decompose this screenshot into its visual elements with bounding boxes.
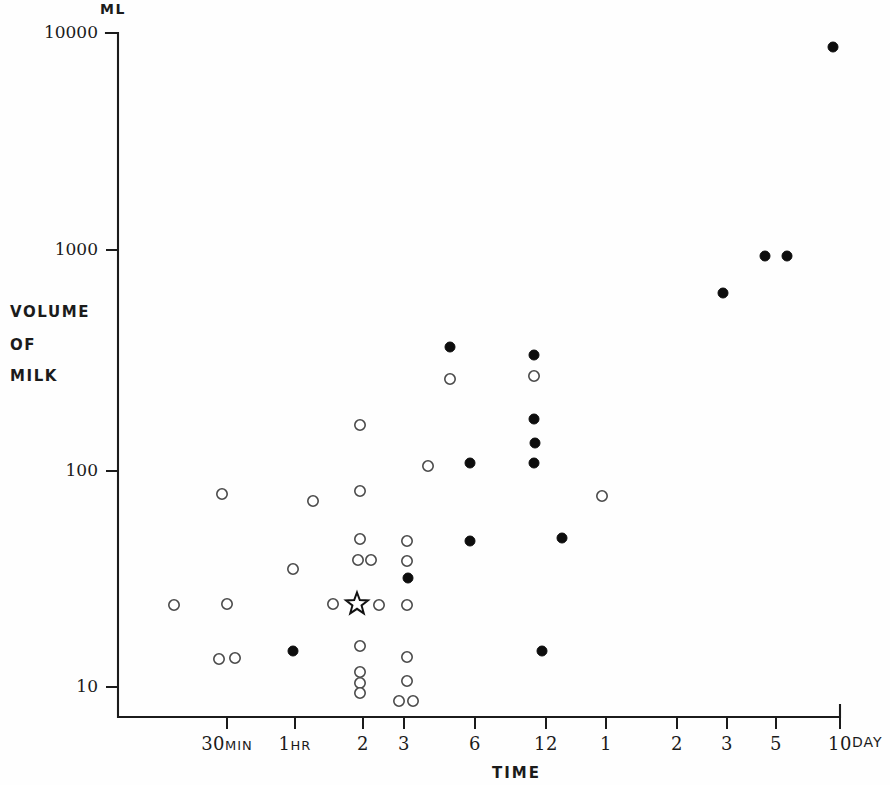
data-point-filled-11	[718, 288, 728, 298]
data-point-filled-12	[760, 251, 770, 261]
data-point-filled-2	[445, 342, 455, 352]
data-point-filled-5	[529, 350, 539, 360]
data-point-open-27	[529, 371, 539, 381]
data-point-open-7	[328, 599, 338, 609]
x-tick-marks	[227, 717, 840, 729]
data-point-open-11	[353, 555, 363, 565]
data-point-filled-4	[465, 536, 475, 546]
axis-frame	[106, 33, 840, 717]
data-point-open-8	[355, 420, 365, 430]
data-point-open-6	[288, 564, 298, 574]
data-point-star-0	[346, 593, 368, 614]
data-point-open-25	[423, 461, 433, 471]
data-point-open-20	[402, 600, 412, 610]
x-tick-label-4: 6	[435, 735, 515, 753]
data-point-open-9	[355, 486, 365, 496]
data-point-open-0	[217, 489, 227, 499]
data-point-filled-14	[828, 42, 838, 52]
data-point-open-15	[355, 667, 365, 677]
y-unit-label: ML	[100, 2, 126, 16]
axis-spine	[106, 33, 840, 717]
y-tick-label-10: 10	[40, 678, 98, 695]
data-point-open-14	[355, 641, 365, 651]
data-point-open-21	[402, 652, 412, 662]
data-point-open-24	[408, 696, 418, 706]
data-point-open-28	[597, 491, 607, 501]
data-point-open-1	[169, 600, 179, 610]
y-axis-title-line-2: OF	[10, 338, 36, 353]
data-point-filled-1	[403, 573, 413, 583]
data-point-filled-9	[537, 646, 547, 656]
data-point-open-2	[222, 599, 232, 609]
data-point-open-3	[214, 654, 224, 664]
y-tick-label-100: 100	[40, 462, 98, 479]
data-point-open-4	[230, 653, 240, 663]
data-point-open-26	[445, 374, 455, 384]
data-point-filled-10	[557, 533, 567, 543]
data-point-open-10	[355, 534, 365, 544]
data-point-open-13	[374, 600, 384, 610]
y-axis-title-line-1: VOLUME	[10, 305, 90, 320]
data-point-open-23	[394, 696, 404, 706]
star-point	[346, 593, 368, 614]
data-point-filled-3	[465, 458, 475, 468]
data-point-filled-8	[529, 458, 539, 468]
data-point-filled-13	[782, 251, 792, 261]
data-point-filled-6	[529, 414, 539, 424]
data-point-open-17	[355, 688, 365, 698]
y-tick-label-10000: 10000	[40, 24, 98, 41]
y-tick-marks	[106, 33, 118, 687]
y-axis-title-line-3: MILK	[10, 369, 58, 384]
data-point-open-22	[402, 676, 412, 686]
data-point-open-16	[355, 678, 365, 688]
x-tick-label-6: 1	[566, 735, 646, 753]
plot-canvas	[0, 0, 890, 785]
x-axis-title: TIME	[492, 766, 541, 781]
data-point-open-12	[366, 555, 376, 565]
data-point-filled-0	[288, 646, 298, 656]
data-point-open-5	[308, 496, 318, 506]
x-tick-label-3: 3	[364, 735, 444, 753]
data-point-open-18	[402, 536, 412, 546]
data-point-open-19	[402, 556, 412, 566]
data-point-filled-7	[530, 438, 540, 448]
x-axis-day-suffix: DAY	[852, 735, 883, 749]
milk-volume-scatter-figure: ML VOLUME OF MILK 10000100010010 30MIN1H…	[0, 0, 890, 785]
y-tick-label-1000: 1000	[40, 241, 98, 258]
